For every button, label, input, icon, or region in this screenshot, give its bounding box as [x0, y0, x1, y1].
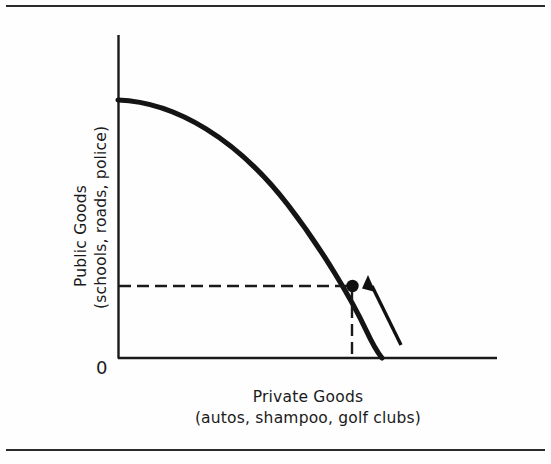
figure-page: Public Goods (schools, roads, police) 0 …: [0, 0, 551, 464]
chosen-point-marker: [346, 280, 358, 292]
x-axis-label-line-2: (autos, shampoo, golf clubs): [118, 408, 498, 429]
x-axis-label-line-1: Private Goods: [118, 387, 498, 408]
y-axis-label: Public Goods (schools, roads, police): [0, 92, 100, 312]
y-axis-label-line-2: (schools, roads, police): [92, 126, 110, 309]
y-axis-label-line-1: Public Goods: [72, 185, 90, 287]
origin-label: 0: [96, 357, 107, 378]
ppf-curve: [118, 100, 382, 358]
x-axis-label: Private Goods (autos, shampoo, golf club…: [118, 387, 498, 429]
